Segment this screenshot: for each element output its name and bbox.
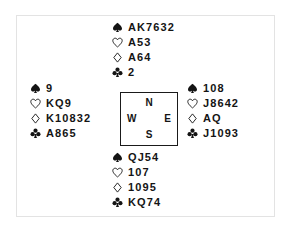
hand-south-hearts: 107	[125, 167, 150, 178]
hand-east: 108 J8642 AQ	[187, 81, 239, 141]
hand-south-diamonds: 1095	[125, 182, 157, 193]
hand-south: QJ54 107 1095	[112, 150, 161, 210]
hand-south-diamonds-row: 1095	[112, 180, 161, 195]
hand-north-diamonds: A64	[125, 52, 151, 63]
hand-north-spades-row: AK7632	[112, 20, 175, 35]
club-icon	[187, 128, 200, 139]
hand-south-hearts-row: 107	[112, 165, 161, 180]
hand-east-spades: 108	[200, 83, 225, 94]
hand-east-hearts-row: J8642	[187, 96, 239, 111]
hand-west: 9 KQ9 K10832	[30, 81, 91, 141]
compass-label-east: E	[164, 114, 171, 124]
compass-label-north: N	[145, 98, 152, 108]
hand-north-spades: AK7632	[125, 22, 175, 33]
compass-label-south: S	[146, 130, 153, 140]
hand-north-hearts-row: A53	[112, 35, 175, 50]
heart-icon	[112, 37, 125, 48]
spade-icon	[30, 83, 43, 94]
hand-west-spades-row: 9	[30, 81, 91, 96]
hand-west-diamonds-row: K10832	[30, 111, 91, 126]
hand-south-spades-row: QJ54	[112, 150, 161, 165]
hand-west-clubs-row: A865	[30, 126, 91, 141]
hand-north-clubs-row: 2	[112, 65, 175, 80]
hand-east-spades-row: 108	[187, 81, 239, 96]
spade-icon	[187, 83, 200, 94]
club-icon	[112, 197, 125, 208]
hand-west-spades: 9	[43, 83, 53, 94]
hand-north: AK7632 A53 A64	[112, 20, 175, 80]
hand-east-clubs: J1093	[200, 128, 239, 139]
bridge-deal-diagram: AK7632 A53 A64	[0, 0, 291, 233]
heart-icon	[30, 98, 43, 109]
hand-north-clubs: 2	[125, 67, 135, 78]
hand-east-diamonds-row: AQ	[187, 111, 239, 126]
compass-box: N W E S	[120, 92, 178, 146]
diamond-icon	[30, 113, 43, 124]
hand-east-hearts: J8642	[200, 98, 239, 109]
diamond-icon	[187, 113, 200, 124]
diamond-icon	[112, 182, 125, 193]
hand-east-diamonds: AQ	[200, 113, 222, 124]
hand-west-hearts: KQ9	[43, 98, 72, 109]
heart-icon	[112, 167, 125, 178]
hand-south-clubs-row: KQ74	[112, 195, 161, 210]
heart-icon	[187, 98, 200, 109]
hand-north-diamonds-row: A64	[112, 50, 175, 65]
hand-north-hearts: A53	[125, 37, 151, 48]
hand-east-clubs-row: J1093	[187, 126, 239, 141]
spade-icon	[112, 152, 125, 163]
hand-west-hearts-row: KQ9	[30, 96, 91, 111]
club-icon	[112, 67, 125, 78]
compass-label-west: W	[127, 114, 136, 124]
hand-south-spades: QJ54	[125, 152, 159, 163]
hand-west-clubs: A865	[43, 128, 77, 139]
club-icon	[30, 128, 43, 139]
hand-south-clubs: KQ74	[125, 197, 161, 208]
diamond-icon	[112, 52, 125, 63]
spade-icon	[112, 22, 125, 33]
hand-west-diamonds: K10832	[43, 113, 91, 124]
